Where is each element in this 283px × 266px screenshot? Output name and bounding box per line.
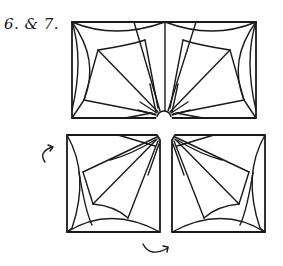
crease-pattern-diagram xyxy=(0,0,283,266)
rotate-bottom-arrow xyxy=(143,244,168,252)
assembled-rectangle xyxy=(72,22,256,118)
bottom-left-square xyxy=(67,135,160,232)
bottom-right-square xyxy=(172,135,265,232)
rotate-left-arrow xyxy=(43,145,53,162)
